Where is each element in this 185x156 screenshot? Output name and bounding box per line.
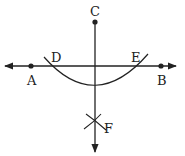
arc-f-left: [84, 114, 101, 129]
label-c: C: [90, 4, 100, 19]
construction-diagram: A B C D E F: [0, 0, 185, 156]
point-b: [158, 63, 163, 68]
label-b: B: [157, 73, 167, 88]
label-d: D: [51, 50, 61, 65]
label-e: E: [131, 50, 141, 65]
point-a: [28, 63, 33, 68]
label-f: F: [104, 121, 113, 136]
label-a: A: [26, 73, 37, 88]
point-c: [92, 19, 97, 24]
arc-f-right: [86, 114, 106, 130]
